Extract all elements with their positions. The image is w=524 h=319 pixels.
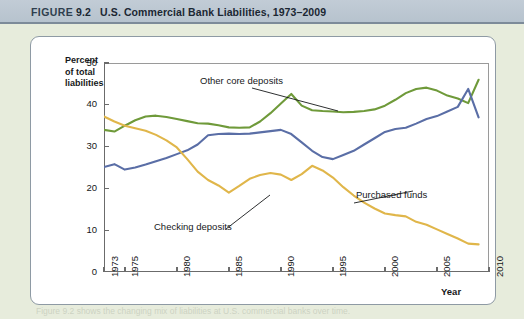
series-line [104, 80, 479, 132]
chart-lines [104, 63, 489, 272]
figure-header-bar: FIGURE 9.2 U.S. Commercial Bank Liabilit… [0, 0, 524, 24]
series-line [104, 89, 479, 170]
plot-area: 01020304050 1973197519801985199019952000… [104, 63, 489, 272]
x-tick-label: 1995 [337, 256, 348, 277]
x-tick-label: 1980 [181, 256, 192, 277]
x-tick-label: 2010 [494, 256, 505, 277]
y-tick-label: 30 [75, 140, 97, 151]
y-tick-mark [104, 104, 109, 105]
x-tick-label: 1990 [285, 256, 296, 277]
annotation-checking-deposits: Checking deposits [154, 221, 232, 232]
y-tick-label: 0 [75, 266, 97, 277]
x-tick-mark [436, 267, 437, 272]
caption-ghost-text: Figure 9.2 shows the changing mix of lia… [36, 306, 488, 317]
y-tick-label: 50 [75, 57, 97, 68]
x-tick-label: 2000 [389, 256, 400, 277]
x-axis-title: Year [441, 286, 461, 297]
y-tick-label: 10 [75, 224, 97, 235]
x-tick-mark [332, 267, 333, 272]
x-tick-mark [488, 267, 489, 272]
y-tick-label: 20 [75, 182, 97, 193]
y-tick-mark [104, 188, 109, 189]
x-tick-label: 1985 [233, 256, 244, 277]
figure-number: 9.2 [76, 6, 91, 18]
x-tick-label: 2005 [441, 256, 452, 277]
y-tick-mark [104, 62, 109, 63]
y-tick-mark [104, 146, 109, 147]
x-tick-mark [103, 267, 104, 272]
annotation-other-core-deposits: Other core deposits [200, 75, 283, 86]
x-tick-mark [384, 267, 385, 272]
header-rule [0, 22, 524, 24]
annotation-purchased-funds: Purchased funds [356, 189, 427, 200]
x-tick-label: 1975 [129, 256, 140, 277]
figure-title-text: U.S. Commercial Bank Liabilities, 1973–2… [100, 6, 326, 18]
x-tick-mark [280, 267, 281, 272]
figure-card: Percent of total liabilities 01020304050… [30, 36, 496, 305]
x-tick-mark [176, 267, 177, 272]
y-tick-mark [104, 230, 109, 231]
y-tick-label: 40 [75, 98, 97, 109]
x-tick-mark [228, 267, 229, 272]
x-tick-mark [124, 267, 125, 272]
figure-title: FIGURE 9.2 U.S. Commercial Bank Liabilit… [31, 6, 326, 18]
figure-screenshot: FIGURE 9.2 U.S. Commercial Bank Liabilit… [0, 0, 524, 319]
x-tick-label: 1973 [109, 256, 120, 277]
figure-label: FIGURE [31, 6, 73, 18]
